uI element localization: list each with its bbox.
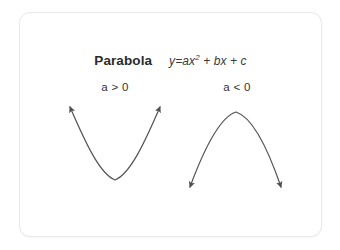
figure-card: Parabolay=ax2 + bx + c — [19, 12, 322, 237]
figure-canvas: Parabolay=ax2 + bx + c a > 0 a < 0 — [0, 0, 340, 250]
title-row: Parabolay=ax2 + bx + c — [20, 51, 321, 69]
equation-lead: y=ax — [169, 54, 195, 68]
page-title: Parabola — [94, 53, 152, 68]
condition-label-a-positive: a > 0 — [74, 81, 156, 93]
condition-label-a-negative: a < 0 — [196, 81, 278, 93]
equation-tail: + bx + c — [200, 54, 247, 68]
equation-label: y=ax2 + bx + c — [169, 54, 247, 68]
